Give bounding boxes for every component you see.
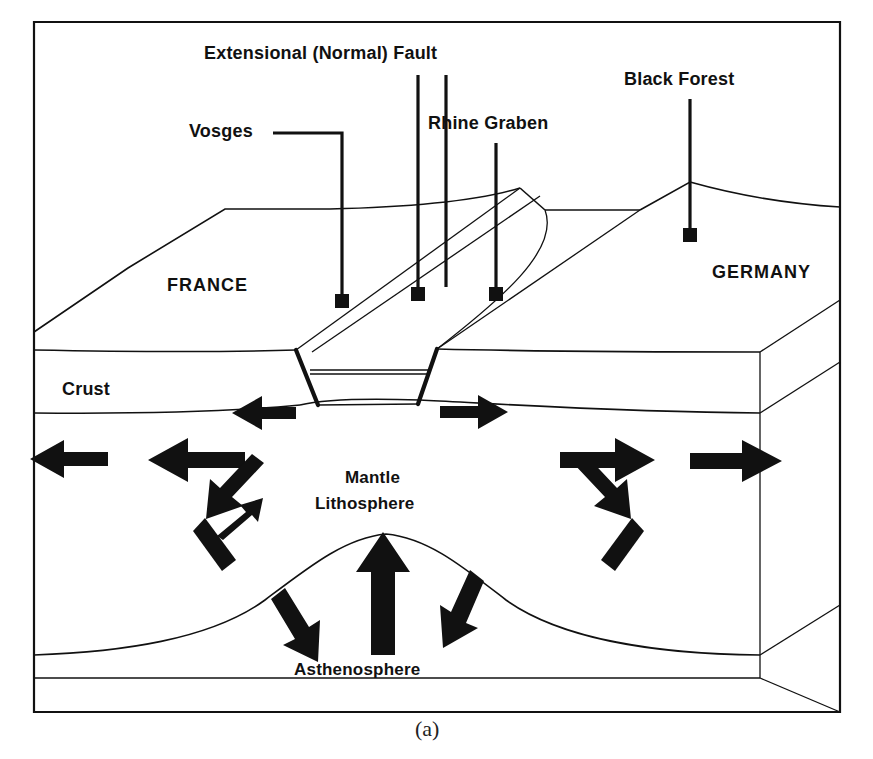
label-rhine-graben: Rhine Graben	[428, 113, 548, 134]
graben-surface-edges	[296, 188, 640, 352]
arrow-mantle-flow-right-inner	[560, 438, 655, 482]
label-germany: GERMANY	[712, 262, 811, 283]
leader-extensional-fault	[411, 75, 425, 301]
label-extensional-fault: Extensional (Normal) Fault	[204, 43, 437, 64]
label-france: FRANCE	[167, 275, 248, 296]
arrow-upwelling-diagonal-left	[193, 454, 264, 571]
leader-vosges	[273, 133, 349, 308]
leader-black-forest	[683, 99, 697, 242]
arrow-asthenosphere-rise-center	[356, 532, 410, 655]
block-front-top-edge	[34, 300, 840, 352]
arrow-mantle-flow-left-outer	[30, 440, 108, 478]
arrow-crust-extension-right	[440, 395, 508, 429]
topographic-surface	[34, 182, 840, 332]
figure-canvas: .ln{fill:none;stroke:#111;stroke-width:1…	[0, 0, 873, 759]
figure-caption: (a)	[415, 716, 439, 742]
label-lithosphere: Lithosphere	[315, 494, 415, 514]
graben-downthrown-block	[296, 349, 437, 405]
arrow-mantle-flow-left-inner	[148, 438, 245, 482]
asthenosphere-boundary	[34, 534, 840, 655]
label-crust: Crust	[62, 379, 110, 400]
label-mantle: Mantle	[345, 468, 400, 488]
arrow-mantle-flow-right-outer	[690, 440, 782, 482]
label-vosges: Vosges	[189, 121, 253, 142]
moho-boundary	[34, 362, 840, 413]
label-asthenosphere: Asthenosphere	[294, 660, 420, 680]
arrow-asthenosphere-rise-left	[271, 588, 320, 662]
arrow-crust-extension-left	[232, 396, 296, 430]
arrow-asthenosphere-rise-right	[440, 570, 484, 648]
label-black-forest: Black Forest	[624, 69, 734, 90]
